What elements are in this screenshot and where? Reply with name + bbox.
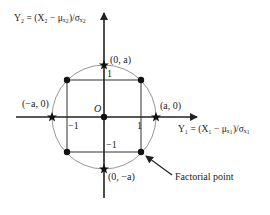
tick-label-right: 1	[137, 121, 142, 131]
factorial-point-top-left	[64, 77, 70, 83]
factorial-point-pointer	[146, 156, 172, 175]
y1-axis-label: Y₁ = (X₁ − μₓ₁)/σₓ₁	[178, 125, 250, 135]
tick-label-left: −1	[68, 121, 79, 131]
factorial-point-top-right	[138, 77, 144, 83]
factorial-point-bottom-right	[138, 149, 144, 155]
factorial-point-bottom-left	[64, 149, 70, 155]
origin-label: O	[94, 104, 101, 114]
axial-label-right: (a, 0)	[160, 101, 181, 111]
axial-label-bottom: (0, −a)	[108, 172, 135, 182]
y2-axis-label: Y₂ = (X₂ − μₓ₂)/σₓ₂	[14, 14, 86, 24]
factorial-point-annotation: Factorial point	[175, 172, 234, 182]
tick-label-top: 1	[107, 69, 112, 79]
center-point	[101, 114, 107, 120]
tick-label-bottom: −1	[106, 140, 117, 150]
axial-label-top: (0, a)	[110, 55, 131, 65]
axial-label-left: (−a, 0)	[22, 99, 49, 109]
